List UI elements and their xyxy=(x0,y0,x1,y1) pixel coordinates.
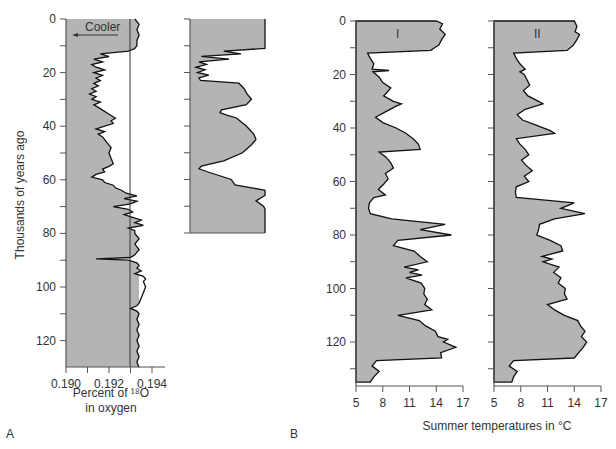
x-tick-label: 17 xyxy=(456,396,470,410)
panel-label-a: A xyxy=(6,427,14,441)
y-tick-label: 120 xyxy=(36,334,56,348)
x-tick-label: 8 xyxy=(379,396,386,410)
x-tick-label: 11 xyxy=(541,396,554,410)
x-ticks-b-ii: 58111417 xyxy=(491,386,608,410)
y-tick-label: 80 xyxy=(333,228,347,242)
x-ticks-b-i: 58111417 xyxy=(353,386,470,410)
x-tick-label: 8 xyxy=(517,396,524,410)
y-tick-label: 100 xyxy=(326,282,346,296)
x-axis-title-a-line2: in oxygen xyxy=(85,401,136,415)
x-tick-label: 17 xyxy=(594,396,608,410)
y-tick-label: 0 xyxy=(49,12,56,26)
y-ticks-a: 020406080100120 xyxy=(36,12,66,348)
y-ticks-b-ii xyxy=(488,21,494,369)
y-tick-label: 20 xyxy=(333,68,347,82)
y-tick-label: 60 xyxy=(43,173,57,187)
y-tick-label: 80 xyxy=(43,226,57,240)
y-tick-label: 40 xyxy=(43,119,57,133)
panel-a-main-chart: 020406080100120 0.1900.1920.194 Cooler P… xyxy=(6,12,167,441)
x-tick-label: 14 xyxy=(568,396,582,410)
y-ticks-inset xyxy=(184,19,190,233)
x-tick-label: 11 xyxy=(403,396,416,410)
series-mark-ii: II xyxy=(534,27,541,41)
y-tick-label: 120 xyxy=(326,335,346,349)
x-tick-label: 5 xyxy=(353,396,360,410)
y-tick-label: 20 xyxy=(43,66,57,80)
cooler-annotation: Cooler xyxy=(85,20,120,34)
series-mark-i: I xyxy=(396,27,399,41)
panel-a-inset-chart xyxy=(184,19,266,233)
y-tick-label: 100 xyxy=(36,280,56,294)
figure-canvas: 020406080100120 0.1900.1920.194 Cooler P… xyxy=(0,0,616,449)
y-axis-title: Thousands of years ago xyxy=(13,130,27,259)
y-ticks-b-i: 020406080100120 xyxy=(326,14,356,369)
x-tick-label: 5 xyxy=(491,396,498,410)
x-axis-title-a-line1: Percent of ¹⁸O xyxy=(73,386,149,400)
x-tick-label: 14 xyxy=(430,396,444,410)
panel-label-b: B xyxy=(290,427,298,441)
y-tick-label: 0 xyxy=(339,14,346,28)
y-tick-label: 40 xyxy=(333,121,347,135)
x-axis-title-b: Summer temperatures in °C xyxy=(423,419,572,433)
y-tick-label: 60 xyxy=(333,175,347,189)
panel-b-i-chart: 020406080100120 58111417 I B xyxy=(290,14,470,441)
